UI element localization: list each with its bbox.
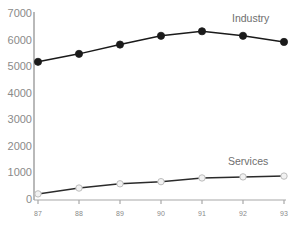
series-services (35, 173, 287, 197)
series-industry (34, 28, 287, 66)
data-point (199, 175, 205, 181)
y-axis-tick-label: 0 (0, 194, 32, 205)
y-axis-tick-label: 3000 (0, 114, 32, 125)
data-point (198, 28, 205, 35)
data-point (76, 185, 82, 191)
x-axis-tick-label: 89 (110, 210, 130, 217)
data-point (75, 50, 82, 57)
chart-series-group (34, 28, 287, 197)
data-point (239, 32, 246, 39)
data-point (281, 173, 287, 179)
x-axis-tick-label: 87 (28, 210, 48, 217)
data-point (117, 181, 123, 187)
line-chart: 01000200030004000500060007000 8788899091… (0, 0, 291, 232)
data-point (35, 191, 41, 197)
y-axis-tick-label: 2000 (0, 141, 32, 152)
x-axis-tick-label: 88 (69, 210, 89, 217)
x-axis-tick-label: 92 (233, 210, 253, 217)
data-point (157, 32, 164, 39)
data-point (240, 174, 246, 180)
chart-plot-area (0, 0, 291, 232)
chart-axes (34, 12, 286, 204)
data-point (116, 41, 123, 48)
data-point (34, 58, 41, 65)
series-label-industry: Industry (232, 13, 269, 24)
y-axis-tick-label: 1000 (0, 167, 32, 178)
y-axis-tick-label: 5000 (0, 61, 32, 72)
x-axis-tick-label: 91 (192, 210, 212, 217)
data-point (280, 38, 287, 45)
x-axis-tick-label: 90 (151, 210, 171, 217)
y-axis-tick-label: 4000 (0, 88, 32, 99)
y-axis-tick-label: 6000 (0, 35, 32, 46)
series-label-services: Services (228, 156, 268, 167)
x-axis-tick-label: 93 (274, 210, 291, 217)
y-axis-tick-label: 7000 (0, 8, 32, 19)
data-point (158, 178, 164, 184)
